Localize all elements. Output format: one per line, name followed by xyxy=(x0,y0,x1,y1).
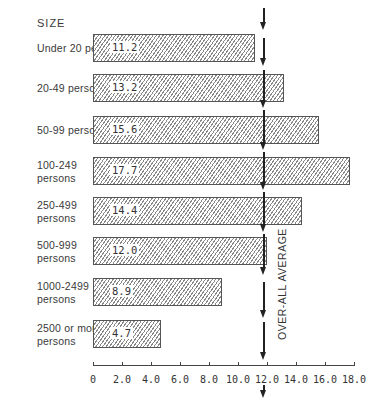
average-line-segment xyxy=(263,282,265,312)
axis-tick xyxy=(209,362,210,366)
bar: 15.6 xyxy=(93,116,319,144)
axis-tick xyxy=(180,362,181,366)
bar-value-label: 4.7 xyxy=(110,327,133,339)
axis-tick-label: 14.0 xyxy=(284,374,308,385)
axis-tick-label: 8.0 xyxy=(200,374,218,385)
axis-tick xyxy=(296,362,297,366)
x-axis xyxy=(93,365,354,366)
category-label: 1000-2499persons xyxy=(37,280,89,306)
bar: 12.0 xyxy=(93,237,267,265)
axis-tick-label: 2.0 xyxy=(113,374,131,385)
bar: 4.7 xyxy=(93,320,161,348)
average-line-segment xyxy=(263,70,265,102)
bar-value-label: 11.2 xyxy=(110,41,139,53)
category-label: 100-249persons xyxy=(37,159,77,185)
average-line-segment xyxy=(263,192,265,226)
axis-tick xyxy=(325,362,326,366)
average-line xyxy=(263,0,264,406)
axis-tick-label: 18.0 xyxy=(342,374,366,385)
arrow-down-icon xyxy=(260,390,266,398)
bar-value-label: 14.4 xyxy=(110,204,139,216)
category-label: 500-999persons xyxy=(37,239,77,265)
average-line-segment xyxy=(263,110,265,144)
axis-tick xyxy=(238,362,239,366)
bar: 11.2 xyxy=(93,34,255,62)
arrow-down-icon xyxy=(260,267,266,275)
axis-tick-label: 6.0 xyxy=(171,374,189,385)
bar-value-label: 12.0 xyxy=(110,244,139,256)
bar: 13.2 xyxy=(93,74,284,102)
bar-value-label: 13.2 xyxy=(110,81,139,93)
average-label: OVER-ALL AVERAGE xyxy=(276,228,288,340)
axis-tick xyxy=(151,362,152,366)
axis-tick-label: 0 xyxy=(90,374,96,385)
arrow-down-icon xyxy=(260,352,266,360)
average-line-segment xyxy=(263,234,265,269)
axis-tick-label: 16.0 xyxy=(313,374,337,385)
chart-title: SIZE xyxy=(37,17,65,29)
bar: 8.9 xyxy=(93,278,222,306)
arrow-down-icon xyxy=(260,100,266,108)
average-line-segment xyxy=(263,322,265,354)
arrow-down-icon xyxy=(260,22,266,30)
axis-tick-label: 4.0 xyxy=(142,374,160,385)
arrow-down-icon xyxy=(260,182,266,190)
bar-value-label: 15.6 xyxy=(110,123,139,135)
axis-tick-label: 12.0 xyxy=(255,374,279,385)
axis-tick xyxy=(122,362,123,366)
average-line-segment xyxy=(263,38,265,60)
axis-tick xyxy=(267,362,268,366)
bar-value-label: 8.9 xyxy=(110,285,133,297)
arrow-down-icon xyxy=(260,224,266,232)
axis-tick xyxy=(354,362,355,366)
arrow-down-icon xyxy=(260,58,266,66)
axis-tick-label: 10.0 xyxy=(226,374,250,385)
arrow-down-icon xyxy=(260,310,266,318)
average-line-segment xyxy=(263,152,265,184)
bar: 14.4 xyxy=(93,197,302,225)
arrow-down-icon xyxy=(260,142,266,150)
axis-tick xyxy=(93,362,94,366)
bar: 17.7 xyxy=(93,157,350,185)
category-label: 250-499persons xyxy=(37,199,77,225)
bar-value-label: 17.7 xyxy=(110,164,139,176)
